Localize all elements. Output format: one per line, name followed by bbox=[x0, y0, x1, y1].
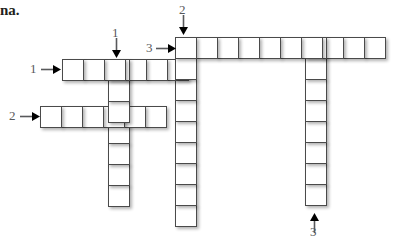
crossword-cell[interactable] bbox=[108, 164, 130, 186]
crossword-cell[interactable] bbox=[108, 101, 130, 123]
crossword-cell[interactable] bbox=[175, 37, 197, 59]
arrow-down-1-icon bbox=[112, 38, 121, 58]
crossword-cell[interactable] bbox=[175, 163, 197, 185]
crossword-cell[interactable] bbox=[364, 37, 386, 59]
crossword-cell[interactable] bbox=[108, 185, 130, 207]
crossword-cell[interactable] bbox=[40, 106, 62, 128]
arrow-across-2-icon bbox=[20, 112, 40, 121]
crossword-cell[interactable] bbox=[83, 59, 105, 81]
crossword-cell[interactable] bbox=[301, 37, 323, 59]
crossword-cell[interactable] bbox=[175, 142, 197, 164]
crossword-cell[interactable] bbox=[104, 59, 126, 81]
crossword-cell[interactable] bbox=[305, 121, 327, 143]
arrow-across-3-icon bbox=[156, 44, 176, 53]
crossword-cell[interactable] bbox=[305, 163, 327, 185]
crossword-cell[interactable] bbox=[343, 37, 365, 59]
crossword-cell[interactable] bbox=[146, 59, 168, 81]
crossword-cell[interactable] bbox=[305, 58, 327, 80]
crossword-cell[interactable] bbox=[305, 184, 327, 206]
label-across-2: 2 bbox=[9, 109, 16, 122]
label-across-1: 1 bbox=[30, 62, 37, 75]
label-across-3: 3 bbox=[146, 41, 153, 54]
arrow-across-1-icon bbox=[41, 65, 61, 74]
crossword-cell[interactable] bbox=[175, 121, 197, 143]
crossword-cell[interactable] bbox=[305, 79, 327, 101]
crossword-cell[interactable] bbox=[217, 37, 239, 59]
crossword-cell[interactable] bbox=[259, 37, 281, 59]
crossword-puzzle: na. 123123 bbox=[0, 0, 406, 240]
crossword-cell[interactable] bbox=[175, 58, 197, 80]
arrow-down-3-icon bbox=[310, 213, 319, 233]
crossword-cell[interactable] bbox=[175, 184, 197, 206]
crossword-cell[interactable] bbox=[82, 106, 104, 128]
crossword-cell[interactable] bbox=[175, 79, 197, 101]
crossword-cell[interactable] bbox=[108, 143, 130, 165]
crossword-cell[interactable] bbox=[305, 142, 327, 164]
crossword-cell[interactable] bbox=[61, 106, 83, 128]
crossword-cell[interactable] bbox=[175, 205, 197, 227]
crossword-cell[interactable] bbox=[108, 80, 130, 102]
crossword-cell[interactable] bbox=[175, 100, 197, 122]
crossword-cell[interactable] bbox=[280, 37, 302, 59]
crossword-cell[interactable] bbox=[62, 59, 84, 81]
crossword-cell[interactable] bbox=[196, 37, 218, 59]
crossword-cell[interactable] bbox=[145, 106, 167, 128]
crossword-cell[interactable] bbox=[238, 37, 260, 59]
arrow-down-2-icon bbox=[179, 15, 188, 35]
crossword-cell[interactable] bbox=[305, 100, 327, 122]
heading-fragment: na. bbox=[0, 2, 20, 19]
